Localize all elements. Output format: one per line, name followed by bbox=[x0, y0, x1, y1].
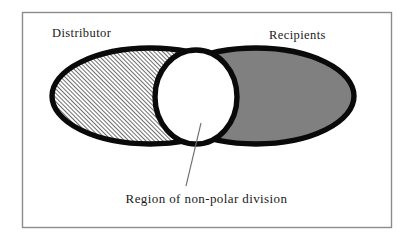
label-region-caption: Region of non-polar division bbox=[0, 191, 413, 207]
figure-canvas: Distributor Recipients Region of non-pol… bbox=[0, 0, 413, 239]
label-distributor: Distributor bbox=[52, 26, 111, 41]
intersection-circle-non-polar-region bbox=[155, 50, 237, 144]
label-recipients: Recipients bbox=[269, 28, 326, 43]
